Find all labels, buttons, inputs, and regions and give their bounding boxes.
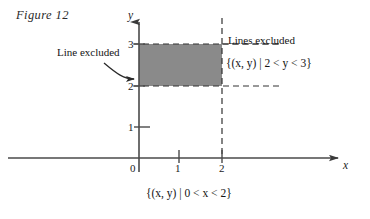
x-tick-label-2: 2 — [219, 163, 225, 174]
annotation-line-excluded: Line excluded — [57, 47, 120, 58]
shaded-region — [139, 44, 222, 86]
x-tick-label-1: 1 — [175, 163, 181, 174]
x-axis-label: x — [343, 160, 348, 172]
annotation-lines-excluded: Lines excluded — [228, 35, 295, 46]
annotation-set-builder-y: {(x, y) | 2 < y < 3} — [226, 58, 312, 70]
origin-label: 0 — [130, 163, 136, 174]
y-tick-label-3: 3 — [128, 39, 134, 50]
line-excluded-arrow-icon — [104, 63, 134, 79]
annotation-set-builder-x: {(x, y) | 0 < x < 2} — [146, 188, 232, 200]
figure-caption: Figure 12 — [16, 9, 69, 22]
y-axis-label: y — [128, 10, 133, 22]
y-tick-label-2: 2 — [128, 81, 134, 92]
y-tick-label-1: 1 — [128, 122, 134, 133]
figure-container: Figure 12 Line excluded Lines excluded {… — [0, 0, 370, 219]
